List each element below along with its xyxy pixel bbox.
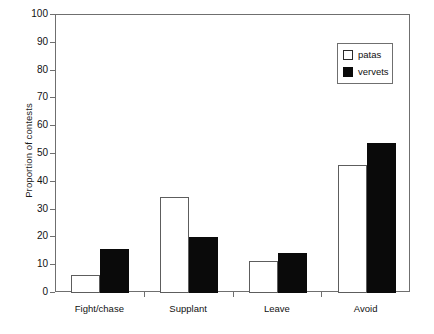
bar-patas-leave [249, 261, 278, 293]
legend-item-vervets: vervets [343, 65, 389, 79]
y-axis-tick-label: 50 [14, 146, 48, 160]
legend-swatch-patas [343, 50, 353, 60]
y-axis-tick-label: 100 [14, 7, 48, 21]
bar-vervets-supplant [189, 237, 218, 293]
bar-vervets-leave [278, 253, 307, 293]
legend-label-patas: patas [358, 50, 381, 60]
y-axis-tick-label: 70 [14, 90, 48, 104]
x-axis-category-label: Avoid [306, 303, 426, 314]
y-axis-tick-label: 90 [14, 35, 48, 49]
plot-area: patas vervets [55, 14, 410, 292]
y-axis-tick-mark [50, 292, 55, 293]
bar-vervets-fight-chase [100, 249, 129, 293]
bar-chart: Proportion of contests 01020304050607080… [0, 0, 434, 334]
y-axis-tick-label: 0 [14, 285, 48, 299]
y-axis: 0102030405060708090100 [0, 0, 55, 334]
bar-vervets-avoid [367, 143, 396, 293]
x-axis-tick-mark [321, 292, 322, 297]
legend: patas vervets [337, 43, 393, 84]
bar-patas-fight-chase [71, 275, 100, 293]
y-axis-tick-label: 60 [14, 118, 48, 132]
y-axis-tick-label: 10 [14, 257, 48, 271]
x-axis-tick-mark [144, 292, 145, 297]
legend-item-patas: patas [343, 48, 381, 62]
bar-patas-supplant [160, 197, 189, 293]
y-axis-tick-label: 40 [14, 174, 48, 188]
legend-swatch-vervets [343, 67, 353, 77]
legend-label-vervets: vervets [358, 67, 389, 77]
bar-patas-avoid [338, 165, 367, 293]
x-axis-tick-mark [233, 292, 234, 297]
y-axis-tick-label: 30 [14, 202, 48, 216]
y-axis-tick-label: 20 [14, 229, 48, 243]
y-axis-tick-label: 80 [14, 63, 48, 77]
